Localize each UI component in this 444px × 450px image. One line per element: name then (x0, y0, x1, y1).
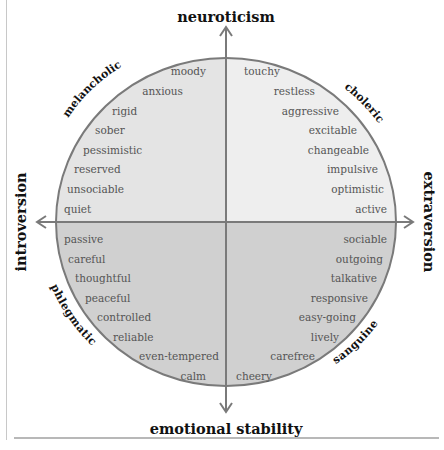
axis-label-bottom: emotional stability (150, 420, 303, 437)
trait: calm (181, 370, 206, 382)
trait: active (355, 203, 387, 215)
trait: thoughtful (75, 272, 131, 284)
trait: reliable (113, 331, 154, 343)
trait: passive (64, 233, 103, 245)
trait: restless (274, 85, 315, 97)
trait: talkative (331, 272, 377, 284)
trait: optimistic (331, 183, 384, 195)
trait: changeable (308, 144, 369, 156)
trait: even-tempered (139, 350, 219, 362)
quadrant-melancholic (56, 58, 226, 222)
trait: responsive (311, 292, 368, 304)
trait: anxious (142, 85, 183, 97)
trait: reserved (74, 163, 121, 175)
personality-diagram: neuroticism emotional stability introver… (0, 0, 444, 450)
trait: cheery (236, 370, 272, 382)
trait: excitable (309, 124, 357, 136)
axis-label-right: extraversion (421, 172, 438, 273)
trait: moody (171, 65, 206, 77)
trait: controlled (97, 311, 151, 323)
axis-label-left: introversion (12, 172, 29, 272)
trait: impulsive (327, 163, 378, 175)
quadrant-choleric (226, 58, 396, 222)
trait: sociable (343, 233, 387, 245)
trait: rigid (112, 105, 137, 117)
trait: touchy (244, 65, 280, 77)
trait: outgoing (336, 253, 383, 265)
trait: unsociable (67, 183, 124, 195)
axis-label-top: neuroticism (177, 8, 275, 25)
trait: aggressive (282, 105, 339, 117)
trait: pessimistic (83, 144, 142, 156)
trait: easy-going (299, 311, 357, 323)
trait: peaceful (85, 292, 131, 304)
trait: quiet (64, 203, 92, 215)
trait: sober (95, 124, 126, 136)
trait: careful (68, 253, 106, 265)
trait: carefree (270, 350, 315, 362)
trait: lively (311, 331, 339, 343)
